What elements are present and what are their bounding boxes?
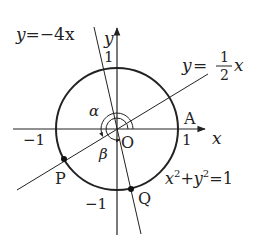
origin-label: O xyxy=(121,133,134,152)
equation-half-x-var: x xyxy=(234,55,244,75)
circle-eq-x: x xyxy=(165,169,174,188)
equation-neg4x: y=−4x xyxy=(15,24,75,44)
tick-x-pos-1: 1 xyxy=(182,131,192,149)
equation-neg4x-rhs: =−4x xyxy=(26,24,75,44)
tick-y-neg-1: −1 xyxy=(85,195,107,213)
equation-neg4x-lhs: y xyxy=(15,24,26,44)
tick-y-pos-1: 1 xyxy=(104,48,114,66)
point-a-label: A xyxy=(183,109,196,128)
point-q-dot xyxy=(128,186,134,192)
circle-eq-plus: + xyxy=(180,169,193,188)
point-p-dot xyxy=(61,156,67,162)
equation-half-x: y = 1 2 x xyxy=(181,49,244,83)
point-q-label: Q xyxy=(138,189,151,208)
unit-circle-diagram: x y O 1 −1 1 −1 A P Q α β y=−4x y = 1 2 … xyxy=(0,0,272,251)
point-p-label: P xyxy=(55,169,66,188)
equation-half-x-den: 2 xyxy=(220,67,229,83)
equation-half-x-lhs: y xyxy=(181,55,192,75)
y-axis-label: y xyxy=(103,28,114,48)
circle-eq-rhs: =1 xyxy=(209,169,233,188)
angle-alpha-label: α xyxy=(89,102,99,120)
x-axis-label: x xyxy=(212,128,222,148)
circle-equation: x2+y2=1 xyxy=(165,168,233,188)
equation-half-x-num: 1 xyxy=(220,49,229,65)
equation-half-x-eq: = xyxy=(193,55,207,75)
tick-x-neg-1: −1 xyxy=(23,131,45,149)
angle-beta-label: β xyxy=(98,145,108,163)
